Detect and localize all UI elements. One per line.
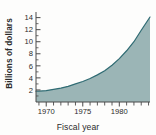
x-axis: 197019751980 (36, 102, 150, 116)
x-tick-label: 1980 (111, 107, 128, 116)
chart-plot-area: 2468101214 197019751980 (0, 0, 156, 135)
y-tick-label: 8 (29, 49, 33, 58)
y-tick-label: 4 (29, 74, 33, 83)
x-tick-label: 1975 (74, 107, 91, 116)
y-tick-label: 2 (29, 86, 33, 95)
area-series-group (36, 17, 150, 102)
y-tick-label: 12 (25, 25, 33, 34)
y-tick-label: 10 (25, 37, 33, 46)
y-tick-label: 6 (29, 62, 33, 71)
y-axis: 2468101214 (25, 12, 41, 102)
chart-figure: 2468101214 197019751980 Billions of doll… (0, 0, 156, 135)
x-axis-title: Fiscal year (0, 116, 156, 134)
x-axis-title-text: Fiscal year (57, 122, 100, 132)
y-tick-label: 14 (25, 13, 33, 22)
x-tick-label: 1970 (38, 107, 55, 116)
